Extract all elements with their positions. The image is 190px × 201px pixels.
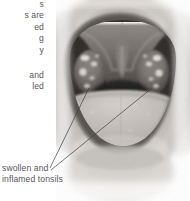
upper-annotation-clipped: s s are ed g y — [0, 0, 44, 56]
tonsils-caption: swollen and inflamed tonsils — [2, 163, 94, 186]
tonsils-illustration-figure: s s are ed g y and led swollen and infla… — [0, 0, 190, 201]
middle-annotation-clipped: and led — [0, 70, 44, 93]
